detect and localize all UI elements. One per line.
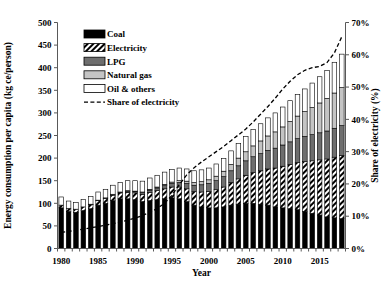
bar-segment bbox=[236, 179, 241, 204]
bar-segment bbox=[177, 199, 182, 249]
bar-segment bbox=[273, 113, 278, 132]
bar-segment bbox=[74, 209, 79, 212]
bar-segment bbox=[133, 193, 138, 200]
bar-segment bbox=[192, 185, 197, 191]
bar-segment bbox=[273, 207, 278, 249]
y-tick-label: 400 bbox=[38, 63, 52, 73]
x-tick-label: 1990 bbox=[126, 256, 145, 266]
bar-segment bbox=[317, 215, 322, 248]
x-axis-title: Year bbox=[192, 268, 212, 278]
bar-segment bbox=[148, 201, 153, 249]
bar-segment bbox=[251, 146, 256, 157]
legend-label: Oil & others bbox=[107, 84, 155, 94]
legend-item-coal: Coal bbox=[84, 29, 125, 39]
y2-tick-label: 10% bbox=[352, 211, 370, 221]
bar-segment bbox=[111, 185, 116, 194]
bar-segment bbox=[310, 83, 315, 107]
legend-swatch bbox=[84, 84, 105, 92]
bar-segment bbox=[162, 199, 167, 249]
y-tick-label: 250 bbox=[38, 131, 52, 141]
bar-segment bbox=[295, 139, 300, 163]
legend-swatch bbox=[84, 71, 105, 79]
bar-segment bbox=[303, 136, 308, 161]
bar-segment bbox=[155, 175, 160, 187]
bar-segment bbox=[325, 98, 330, 131]
bar-segment bbox=[340, 155, 345, 218]
bar-segment bbox=[258, 154, 263, 171]
bar-segment bbox=[244, 161, 249, 175]
bar-segment bbox=[162, 189, 167, 199]
bar-segment bbox=[214, 164, 219, 176]
bar-segment bbox=[155, 191, 160, 200]
bar-segment bbox=[295, 116, 300, 139]
y2-tick-label: 20% bbox=[352, 179, 370, 189]
bar-segment bbox=[251, 157, 256, 173]
y-axis-title: Energy consumption per capita (kg ce/per… bbox=[3, 42, 14, 229]
bar-segment bbox=[81, 207, 86, 211]
bar-segment bbox=[221, 177, 226, 187]
bar-segment bbox=[221, 159, 226, 172]
bar-segment bbox=[199, 192, 204, 207]
bar-segment bbox=[325, 70, 330, 98]
bar-segment bbox=[266, 169, 271, 205]
chart-svg: 0501001502002503003504004505000%10%20%30… bbox=[0, 0, 387, 288]
bar-segment bbox=[177, 168, 182, 181]
bar-segment bbox=[236, 204, 241, 248]
y-tick-label: 350 bbox=[38, 86, 52, 96]
bar-segment bbox=[325, 159, 330, 217]
bar-segment bbox=[340, 126, 345, 156]
bar-segment bbox=[148, 178, 153, 189]
chart-legend: CoalElectricityLPGNatural gasOil & other… bbox=[84, 29, 180, 107]
bar-segment bbox=[317, 133, 322, 160]
legend-item-natural-gas: Natural gas bbox=[84, 70, 152, 80]
bar-segment bbox=[214, 208, 219, 249]
bar-segment bbox=[325, 131, 330, 159]
bar-segment bbox=[96, 201, 101, 206]
bar-segment bbox=[310, 135, 315, 161]
bar-segment bbox=[310, 161, 315, 213]
y-tick-label: 500 bbox=[38, 18, 52, 28]
bar-segment bbox=[288, 209, 293, 249]
bar-segment bbox=[236, 144, 241, 158]
bar-segment bbox=[66, 208, 71, 211]
bar-segment bbox=[236, 166, 241, 179]
bar-segment bbox=[288, 142, 293, 165]
bar-segment bbox=[66, 201, 71, 208]
bar-segment bbox=[207, 180, 212, 184]
bar-segment bbox=[295, 94, 300, 116]
bar-segment bbox=[229, 171, 234, 183]
bar-segment bbox=[199, 182, 204, 185]
bar-segment bbox=[280, 127, 285, 145]
bar-segment bbox=[332, 93, 337, 128]
bar-segment bbox=[59, 208, 64, 249]
bar-segment bbox=[303, 89, 308, 112]
bar-segment bbox=[273, 132, 278, 148]
bar-segment bbox=[266, 150, 271, 169]
x-tick-label: 2000 bbox=[200, 256, 219, 266]
bar-segment bbox=[288, 164, 293, 208]
bar-segment bbox=[155, 188, 160, 191]
bar-segment bbox=[266, 118, 271, 136]
bar-segment bbox=[251, 173, 256, 204]
y2-tick-label: 60% bbox=[352, 50, 370, 60]
x-tick-label: 2010 bbox=[274, 256, 293, 266]
bar-segment bbox=[310, 107, 315, 134]
bar-segment bbox=[332, 128, 337, 157]
bar-segment bbox=[229, 151, 234, 165]
bar-segment bbox=[118, 183, 123, 192]
y-tick-label: 300 bbox=[38, 108, 52, 118]
bar-segment bbox=[214, 181, 219, 190]
bar-segment bbox=[317, 160, 322, 215]
legend-item-share-of-electricity: Share of electricity bbox=[84, 97, 180, 107]
bar-segment bbox=[340, 219, 345, 249]
bar-segment bbox=[207, 208, 212, 249]
bar-segment bbox=[280, 166, 285, 208]
bar-segment bbox=[192, 192, 197, 206]
bar-segment bbox=[332, 218, 337, 249]
y2-tick-label: 70% bbox=[352, 18, 370, 28]
legend-item-electricity: Electricity bbox=[84, 43, 147, 53]
bar-segment bbox=[103, 203, 108, 248]
y-tick-label: 100 bbox=[38, 199, 52, 209]
bar-segment bbox=[103, 189, 108, 198]
bar-segment bbox=[280, 208, 285, 249]
